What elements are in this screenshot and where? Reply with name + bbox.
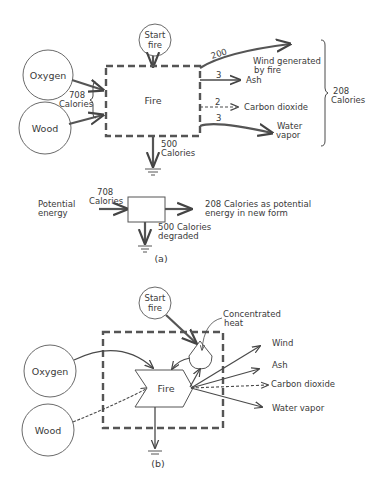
heat-sink-unit: Calories [161,148,196,158]
summary-input-unit: Calories [89,196,124,206]
start-fire-label: Start [145,30,166,40]
start-fire-label-2: fire [148,40,162,50]
output-total-unit: Calories [331,95,366,105]
output-water-arrow [191,388,262,407]
wood-node: Wood [19,102,71,154]
start-fire-label-2: fire [148,303,162,313]
output-wind-label-2: by fire [254,65,281,75]
summary-degraded-label-2: degraded [158,231,199,241]
oxygen-label: Oxygen [30,70,67,81]
diagram-b: Start fire Oxygen Wood Fire Concentrated… [22,287,335,469]
summary-process-box [128,197,165,222]
output-co2-label: Carbon dioxide [244,102,308,112]
output-water-label-2: vapor [276,130,301,140]
oxygen-arrow [72,80,103,90]
fire-label: Fire [158,383,175,394]
wood-node: Wood [22,404,74,456]
output-co2-label: Carbon dioxide [271,379,335,389]
start-fire-label: Start [145,293,166,303]
potential-energy-label-2: energy [38,208,68,218]
caption-b: (b) [151,458,164,469]
fire-label: Fire [145,95,162,106]
wood-label: Wood [32,123,59,134]
ground-icon [148,451,162,454]
start-fire-arrow [166,315,196,343]
output-water-arrow [200,124,272,133]
output-co2-value: 2 [215,97,220,107]
oxygen-arrow [74,351,153,368]
start-fire-node: Start fire [139,24,171,66]
energy-flow-diagram: Start fire Oxygen Wood 708 Calories Fire… [0,0,382,482]
wood-label: Wood [35,425,62,436]
concentrated-heat-shape [189,341,212,369]
wood-arrow [69,115,103,124]
output-ash-arrow [191,369,259,388]
output-co2-arrow [191,385,268,388]
concentrated-heat-pointer [202,318,222,350]
ground-icon [145,169,161,175]
concentrated-heat-label-2: heat [224,318,244,328]
output-brace-icon [321,40,328,146]
output-wind-value: 200 [210,46,229,61]
output-wind-label: Wind [272,338,293,348]
oxygen-node: Oxygen [23,50,73,100]
summary-a: Potential energy 708 Calories 208 Calori… [38,187,311,264]
output-ash-label: Ash [272,360,288,370]
heat-feedback-arrow [172,358,190,369]
output-water-label: Water vapor [272,403,325,413]
summary-output-label-2: energy in new form [205,208,288,218]
oxygen-node: Oxygen [24,345,76,397]
output-water-value: 3 [216,113,221,123]
heat-store-arrow [190,369,200,387]
caption-a: (a) [154,253,167,264]
output-ash-value: 3 [216,70,221,80]
input-unit: Calories [59,99,94,109]
output-ash-label: Ash [246,75,262,85]
oxygen-label: Oxygen [32,366,69,377]
diagram-a: Start fire Oxygen Wood 708 Calories Fire… [19,24,366,175]
start-fire-node: Start fire [139,287,171,319]
ground-icon [138,246,152,252]
